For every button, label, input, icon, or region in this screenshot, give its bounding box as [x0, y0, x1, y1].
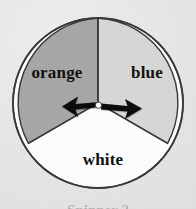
sector-label-orange: orange [31, 63, 82, 82]
pivot-dot[interactable] [95, 102, 101, 108]
spinner-figure: orange blue white Spinner 2 [0, 0, 196, 209]
figure-caption-clipped: Spinner 2 [0, 203, 196, 209]
sector-label-blue: blue [131, 63, 163, 82]
sector-label-white: white [83, 150, 124, 169]
spinner-graphic: orange blue white [0, 0, 196, 209]
